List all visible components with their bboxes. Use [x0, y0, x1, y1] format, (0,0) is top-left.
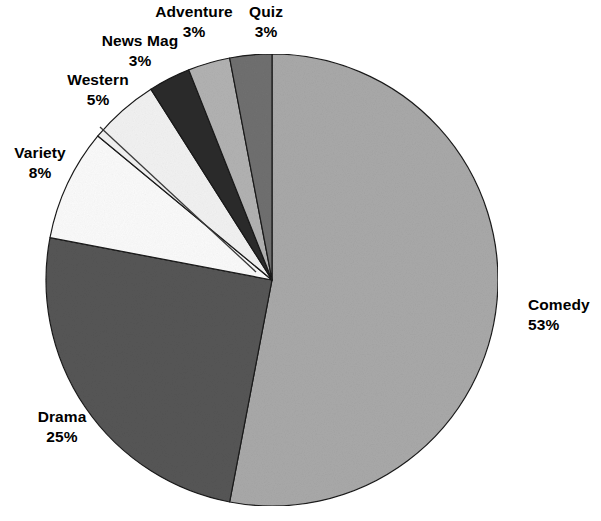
pie-label-variety-percent: 8%: [2, 163, 78, 183]
pie-label-adventure-name: Adventure: [140, 2, 248, 22]
pie-label-comedy-name: Comedy: [528, 295, 600, 315]
pie-label-variety: Variety 8%: [2, 143, 78, 184]
pie-label-western: Western 5%: [52, 70, 144, 111]
pie-label-western-name: Western: [52, 70, 144, 90]
pie-label-drama-percent: 25%: [24, 427, 100, 447]
pie-chart-figure: Quiz 3% Adventure 3% News Mag 3% Western…: [0, 0, 601, 521]
pie-label-variety-name: Variety: [2, 143, 78, 163]
pie-label-comedy: Comedy 53%: [528, 295, 600, 336]
pie-label-western-percent: 5%: [52, 90, 144, 110]
pie-label-news-mag-percent: 3%: [88, 51, 192, 71]
pie-label-news-mag-name: News Mag: [88, 31, 192, 51]
pie-slices-group: [46, 54, 498, 506]
pie-label-news-mag: News Mag 3%: [88, 31, 192, 72]
pie-label-drama: Drama 25%: [24, 407, 100, 448]
pie-label-drama-name: Drama: [24, 407, 100, 427]
pie-label-comedy-percent: 53%: [528, 315, 600, 335]
